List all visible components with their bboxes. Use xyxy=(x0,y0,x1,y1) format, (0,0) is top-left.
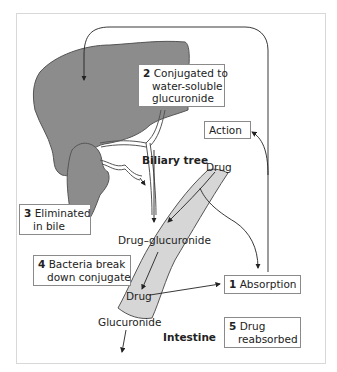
step-2-box: 2 Conjugated to water-soluble glucuronid… xyxy=(138,64,225,107)
step-number: 2 xyxy=(143,67,150,79)
intestine-label: Intestine xyxy=(163,331,216,343)
glucuronide-label: Glucuronide xyxy=(98,316,161,328)
step-4-box: 4 Bacteria break down conjugate xyxy=(33,255,131,286)
step-1-box: 1 Absorption xyxy=(224,275,301,294)
biliary-tree-label: Biliary tree xyxy=(142,154,208,166)
action-box: Action xyxy=(204,121,251,139)
drug-top-label: Drug xyxy=(206,161,232,173)
step-3-box: 3 Eliminated in bile xyxy=(19,204,91,235)
drug-bottom-label: Drug xyxy=(126,290,152,302)
drug-glucuronide-label: Drug–glucuronide xyxy=(118,234,211,246)
step-5-box: 5 Drug reabsorbed xyxy=(224,317,301,348)
